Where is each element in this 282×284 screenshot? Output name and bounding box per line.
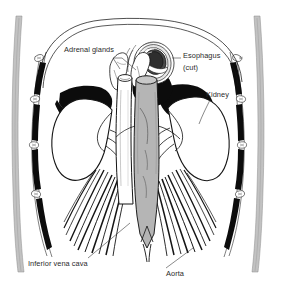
anatomy-illustration: Adrenal glands Esophagus (cut) Kidney In… xyxy=(0,0,282,284)
label-aorta: Aorta xyxy=(166,269,185,278)
label-esophagus: Esophagus xyxy=(183,51,221,60)
inferior-vena-cava xyxy=(116,75,133,204)
label-adrenal-glands: Adrenal glands xyxy=(64,45,114,54)
label-inferior-vena-cava: Inferior vena cava xyxy=(28,259,88,268)
anatomical-figure: Adrenal glands Esophagus (cut) Kidney In… xyxy=(0,0,282,284)
label-esophagus-cut: (cut) xyxy=(183,63,198,72)
label-kidney: Kidney xyxy=(206,90,229,99)
